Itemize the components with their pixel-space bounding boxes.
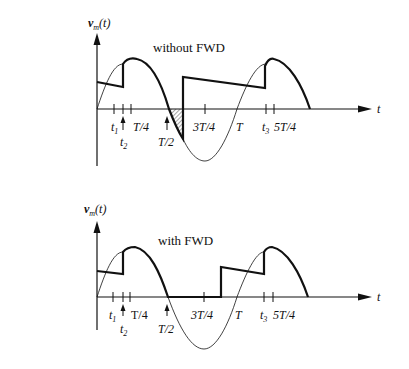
tick-label-t2: t2: [120, 135, 127, 151]
arrow-up-icon: [165, 304, 170, 311]
arrow-up-icon: [165, 116, 170, 123]
tick-label-t1: t1: [111, 120, 118, 136]
panel-title: with FWD: [158, 233, 213, 248]
x-axis-label: t: [377, 290, 381, 304]
y-axis-arrow-icon: [94, 221, 101, 233]
x-axis-label: t: [377, 102, 381, 116]
tick-label-t3: t3: [260, 308, 267, 324]
tick-label-3t-quarter: 3T/4: [192, 120, 215, 134]
tick-label-t-quarter: T/4: [133, 120, 149, 134]
x-axis-arrow-icon: [358, 294, 372, 301]
y-axis-label: vm(t): [84, 202, 106, 218]
tick-label-t2: t2: [120, 322, 127, 338]
tick-label-t-quarter: T/4: [131, 308, 148, 322]
tick-label-3t-quarter: 3T/4: [190, 308, 213, 322]
tick-label-5t-quarter: 5T/4: [274, 120, 296, 134]
tick-label-t-half: T/2: [158, 322, 174, 336]
panel-title: without FWD: [153, 40, 225, 55]
y-axis-label: vm(t): [88, 16, 110, 32]
arrow-up-icon: [121, 304, 126, 311]
x-axis-arrow-icon: [358, 106, 372, 113]
arrow-up-icon: [121, 116, 126, 123]
waveform-diagram: vm(t) t without FWD t1 t2 T/4 T/2 3T/4 T: [0, 0, 409, 369]
y-axis-arrow-icon: [94, 33, 101, 45]
tick-label-t: T: [235, 308, 243, 322]
tick-label-t: T: [236, 120, 244, 134]
tick-label-5t-quarter: 5T/4: [273, 308, 295, 322]
tick-label-t1: t1: [109, 308, 116, 324]
panel-with-fwd: vm(t) t with FWD t1 t2 T/4 T/2 3T/4 T t3…: [84, 202, 381, 349]
panel-without-fwd: vm(t) t without FWD t1 t2 T/4 T/2 3T/4 T: [88, 16, 381, 166]
tick-label-t3: t3: [262, 120, 269, 136]
tick-label-t-half: T/2: [158, 135, 174, 149]
output-voltage-thick: [97, 247, 308, 297]
